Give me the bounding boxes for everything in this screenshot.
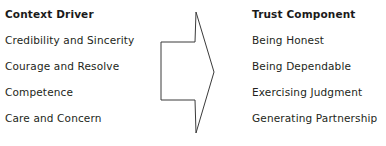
right-arrow-icon <box>155 5 225 141</box>
context-driver-column: Context Driver Credibility and Sincerity… <box>5 0 155 146</box>
trust-component-item-2: Being Dependable <box>252 60 351 72</box>
arrow-polygon <box>161 12 214 133</box>
trust-component-header: Trust Component <box>252 8 356 20</box>
context-driver-item-2: Courage and Resolve <box>5 60 119 72</box>
context-driver-item-1: Credibility and Sincerity <box>5 34 134 46</box>
trust-component-column: Trust Component Being Honest Being Depen… <box>252 0 386 146</box>
trust-component-item-1: Being Honest <box>252 34 324 46</box>
trust-component-item-3: Exercising Judgment <box>252 86 362 98</box>
context-driver-header: Context Driver <box>5 8 94 20</box>
diagram-canvas: Context Driver Credibility and Sincerity… <box>0 0 386 146</box>
trust-component-item-4: Generating Partnership <box>252 112 377 124</box>
context-driver-item-4: Care and Concern <box>5 112 102 124</box>
context-driver-item-3: Competence <box>5 86 73 98</box>
